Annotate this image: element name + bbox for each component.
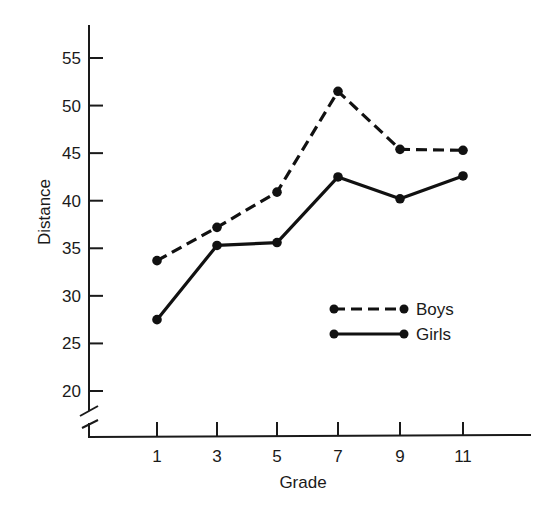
legend-marker-icon (400, 305, 409, 314)
y-tick-label: 20 (62, 382, 81, 401)
legend-item-girls: Girls (330, 325, 451, 344)
x-tick-label: 1 (152, 447, 161, 466)
x-axis-title: Grade (279, 473, 326, 492)
data-point-marker-icon (333, 172, 343, 182)
y-tick-label: 30 (62, 287, 81, 306)
y-tick-label: 40 (62, 192, 81, 211)
y-ticks: 2025303540455055 (62, 49, 103, 401)
legend-marker-icon (330, 305, 339, 314)
x-tick-label: 7 (333, 447, 342, 466)
y-tick-label: 50 (62, 97, 81, 116)
y-axis-title: Distance (35, 179, 54, 245)
data-point-marker-icon (152, 315, 162, 325)
legend-marker-icon (330, 330, 339, 339)
legend-label-boys: Boys (416, 300, 454, 319)
series-boys (152, 86, 468, 265)
y-tick-label: 35 (62, 239, 81, 258)
data-point-marker-icon (272, 238, 282, 248)
x-axis-line (88, 435, 531, 437)
data-point-marker-icon (272, 187, 282, 197)
x-axis: 1357911 (88, 422, 531, 466)
y-axis: 2025303540455055 (62, 25, 103, 437)
x-tick-label: 9 (395, 447, 404, 466)
legend-marker-icon (400, 330, 409, 339)
data-point-marker-icon (458, 145, 468, 155)
y-tick-label: 55 (62, 49, 81, 68)
data-point-marker-icon (395, 194, 405, 204)
data-point-marker-icon (152, 256, 162, 266)
series-layer (152, 86, 468, 324)
x-ticks: 1357911 (152, 422, 472, 466)
y-tick-label: 45 (62, 144, 81, 163)
legend-label-girls: Girls (416, 325, 451, 344)
y-tick-label: 25 (62, 334, 81, 353)
data-point-marker-icon (333, 86, 343, 96)
data-point-marker-icon (395, 145, 405, 155)
line-chart: 2025303540455055 1357911 Grade Distance … (0, 0, 557, 515)
legend-item-boys: Boys (330, 300, 454, 319)
x-tick-label: 3 (212, 447, 221, 466)
x-tick-label: 11 (454, 447, 472, 466)
x-tick-label: 5 (272, 447, 281, 466)
data-point-marker-icon (458, 171, 468, 181)
series-line-boys (157, 91, 463, 260)
legend: Boys Girls (330, 300, 454, 344)
series-line-girls (157, 176, 463, 320)
data-point-marker-icon (212, 223, 222, 233)
data-point-marker-icon (212, 241, 222, 251)
